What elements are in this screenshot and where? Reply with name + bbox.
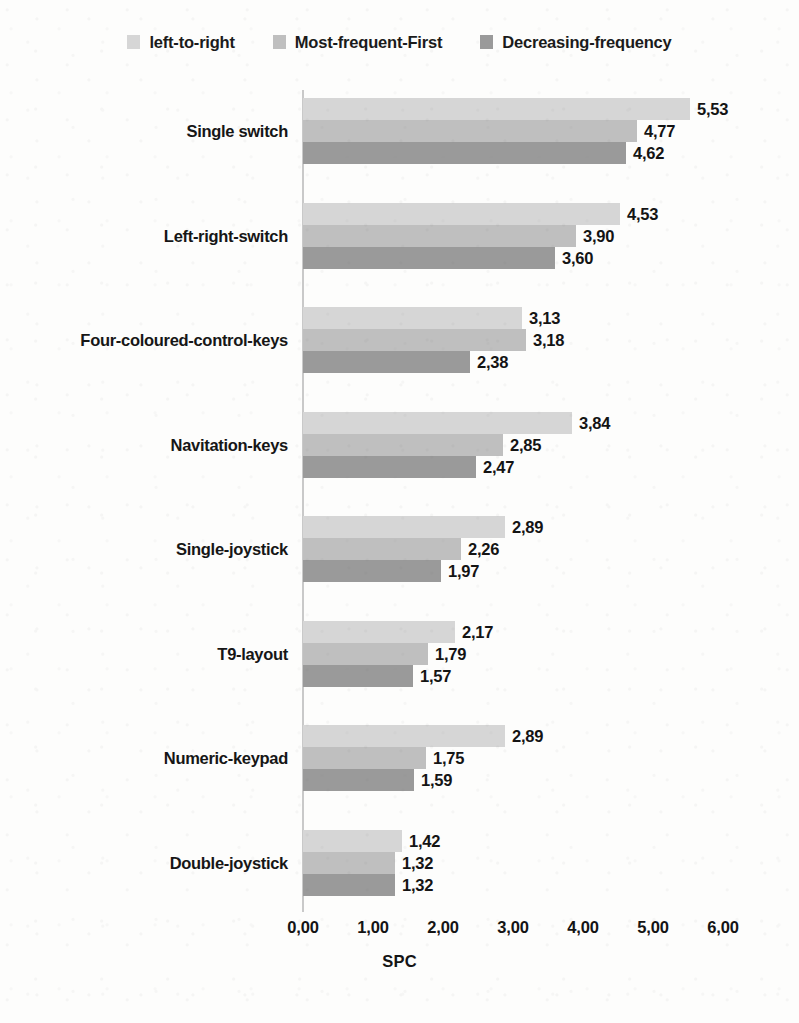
bar-row: 1,32 bbox=[303, 852, 799, 874]
bar-row: 1,75 bbox=[303, 747, 799, 769]
category-label: T9-layout bbox=[217, 644, 288, 663]
bar-group: 4,533,903,60 bbox=[303, 203, 799, 269]
category-axis-labels: Single switchLeft-right-switchFour-colou… bbox=[0, 88, 292, 913]
bar[interactable] bbox=[303, 98, 690, 120]
bar[interactable] bbox=[303, 538, 461, 560]
bar-group: 2,171,791,57 bbox=[303, 621, 799, 687]
bar-value-label: 1,59 bbox=[421, 771, 452, 790]
x-tick-label: 6,00 bbox=[707, 918, 738, 937]
category-label: Single switch bbox=[186, 122, 288, 141]
bar-row: 1,57 bbox=[303, 665, 799, 687]
bar-row: 4,77 bbox=[303, 120, 799, 142]
bar[interactable] bbox=[303, 456, 476, 478]
bar-row: 3,13 bbox=[303, 307, 799, 329]
bar-row: 4,53 bbox=[303, 203, 799, 225]
bar[interactable] bbox=[303, 247, 555, 269]
bar[interactable] bbox=[303, 225, 576, 247]
bar[interactable] bbox=[303, 516, 505, 538]
bar[interactable] bbox=[303, 329, 526, 351]
bar-group: 3,133,182,38 bbox=[303, 307, 799, 373]
bar-row: 1,79 bbox=[303, 643, 799, 665]
chart-legend: left-to-right Most-frequent-First Decrea… bbox=[0, 30, 799, 54]
bar-row: 2,17 bbox=[303, 621, 799, 643]
bar-value-label: 2,47 bbox=[483, 457, 514, 476]
bar-value-label: 2,89 bbox=[512, 518, 543, 537]
x-tick-label: 0,00 bbox=[287, 918, 318, 937]
bar[interactable] bbox=[303, 412, 572, 434]
legend-label-left-to-right: left-to-right bbox=[149, 33, 234, 52]
bar-value-label: 3,18 bbox=[533, 331, 564, 350]
bar-group: 1,421,321,32 bbox=[303, 830, 799, 896]
bar-value-label: 4,53 bbox=[627, 204, 658, 223]
bar-value-label: 5,53 bbox=[697, 100, 728, 119]
bar[interactable] bbox=[303, 874, 395, 896]
legend-swatch-decreasing-frequency bbox=[480, 35, 493, 49]
bar[interactable] bbox=[303, 665, 413, 687]
bar-value-label: 1,79 bbox=[435, 644, 466, 663]
bar-group: 2,892,261,97 bbox=[303, 516, 799, 582]
bar-row: 5,53 bbox=[303, 98, 799, 120]
category-label: Left-right-switch bbox=[164, 226, 288, 245]
bar[interactable] bbox=[303, 307, 522, 329]
x-tick-label: 4,00 bbox=[567, 918, 598, 937]
bar-value-label: 2,17 bbox=[462, 622, 493, 641]
bar-row: 2,85 bbox=[303, 434, 799, 456]
bars-layer: 5,534,774,624,533,903,603,133,182,383,84… bbox=[303, 88, 799, 913]
bar-value-label: 1,57 bbox=[420, 666, 451, 685]
bar-row: 3,84 bbox=[303, 412, 799, 434]
bar[interactable] bbox=[303, 747, 426, 769]
bar[interactable] bbox=[303, 725, 505, 747]
bar[interactable] bbox=[303, 769, 414, 791]
bar-row: 2,89 bbox=[303, 725, 799, 747]
legend-entry-most-frequent-first[interactable]: Most-frequent-First bbox=[273, 33, 442, 52]
bar-row: 1,59 bbox=[303, 769, 799, 791]
bar[interactable] bbox=[303, 621, 455, 643]
bar-group: 5,534,774,62 bbox=[303, 98, 799, 164]
bar[interactable] bbox=[303, 434, 503, 456]
category-label: Navitation-keys bbox=[171, 435, 288, 454]
bar-value-label: 2,26 bbox=[468, 540, 499, 559]
bar-row: 4,62 bbox=[303, 142, 799, 164]
bar-value-label: 4,62 bbox=[633, 144, 664, 163]
bar[interactable] bbox=[303, 830, 402, 852]
legend-swatch-left-to-right bbox=[127, 35, 140, 49]
bar[interactable] bbox=[303, 351, 470, 373]
bar-row: 1,97 bbox=[303, 560, 799, 582]
bar-row: 1,32 bbox=[303, 874, 799, 896]
bar-value-label: 1,97 bbox=[448, 562, 479, 581]
x-tick-label: 2,00 bbox=[427, 918, 458, 937]
bar-value-label: 1,75 bbox=[433, 749, 464, 768]
x-tick-label: 1,00 bbox=[357, 918, 388, 937]
bar[interactable] bbox=[303, 560, 441, 582]
bar-value-label: 2,85 bbox=[510, 435, 541, 454]
bar-row: 2,26 bbox=[303, 538, 799, 560]
value-axis-tick-labels: 0,001,002,003,004,005,006,00 bbox=[0, 918, 799, 944]
bar[interactable] bbox=[303, 120, 637, 142]
bar-row: 2,38 bbox=[303, 351, 799, 373]
bar-value-label: 2,38 bbox=[477, 353, 508, 372]
category-label: Numeric-keypad bbox=[164, 749, 288, 768]
bar-row: 3,90 bbox=[303, 225, 799, 247]
bar-value-label: 3,13 bbox=[529, 309, 560, 328]
bar[interactable] bbox=[303, 142, 626, 164]
plot-area: Single switchLeft-right-switchFour-colou… bbox=[0, 88, 799, 913]
bar-row: 1,42 bbox=[303, 830, 799, 852]
bar-row: 3,18 bbox=[303, 329, 799, 351]
bar-value-label: 1,42 bbox=[409, 831, 440, 850]
bar[interactable] bbox=[303, 643, 428, 665]
x-tick-label: 3,00 bbox=[497, 918, 528, 937]
category-label: Double-joystick bbox=[170, 853, 288, 872]
bar-value-label: 3,84 bbox=[579, 413, 610, 432]
bar-row: 2,47 bbox=[303, 456, 799, 478]
legend-label-most-frequent-first: Most-frequent-First bbox=[295, 33, 442, 52]
bar-group: 3,842,852,47 bbox=[303, 412, 799, 478]
legend-entry-left-to-right[interactable]: left-to-right bbox=[127, 33, 234, 52]
x-tick-label: 5,00 bbox=[637, 918, 668, 937]
bar[interactable] bbox=[303, 852, 395, 874]
legend-entry-decreasing-frequency[interactable]: Decreasing-frequency bbox=[480, 33, 671, 52]
bar-value-label: 3,60 bbox=[562, 248, 593, 267]
bar[interactable] bbox=[303, 203, 620, 225]
category-label: Four-coloured-control-keys bbox=[80, 331, 288, 350]
bar-value-label: 1,32 bbox=[402, 875, 433, 894]
bar-value-label: 4,77 bbox=[644, 122, 675, 141]
